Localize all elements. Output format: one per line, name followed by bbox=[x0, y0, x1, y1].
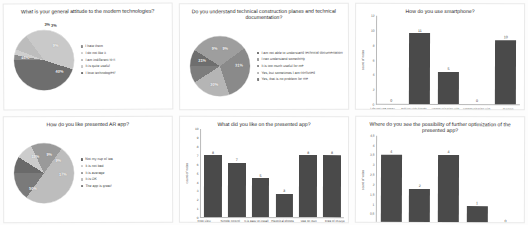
x-tick-label: Use on own mobile phone bbox=[296, 219, 322, 222]
x-axis-labels: I do not use smart functions in smartpho… bbox=[367, 106, 524, 110]
y-tick-label: 0,5 bbox=[370, 212, 374, 216]
bar bbox=[409, 33, 430, 104]
legend-swatch-icon bbox=[81, 178, 83, 180]
bar bbox=[495, 40, 516, 104]
pie-slice-value: 9% bbox=[55, 157, 61, 162]
legend-label: I love technologies! bbox=[85, 71, 115, 75]
y-tick-label: 7 bbox=[197, 153, 199, 157]
y-tick-label: 4,5 bbox=[370, 133, 374, 137]
y-tick-label: 8 bbox=[373, 44, 375, 48]
pie-wrap: 3%3%9%40%45% bbox=[14, 30, 74, 90]
chart-panel-like-ar-pie: How do you like presented AR app? 9%9%17… bbox=[3, 115, 173, 222]
pie-body: 9%31%30%21%9% I am not able to understan… bbox=[180, 22, 348, 110]
pie-slice-value: 9% bbox=[46, 152, 52, 157]
bar-value-label: 11 bbox=[418, 28, 422, 32]
y-axis-ticks: 121086420 bbox=[365, 16, 376, 105]
y-axis-ticks: 4,543,532,521,510,50 bbox=[365, 135, 376, 222]
legend-swatch-icon bbox=[81, 171, 83, 173]
bar-column: 7 bbox=[225, 129, 249, 217]
legend-label: It is too much useful for me bbox=[261, 64, 303, 68]
y-tick-label: 0 bbox=[373, 222, 375, 223]
chart-legend: I hate themI do not like itI am indiffer… bbox=[74, 44, 169, 75]
y-tick-label: 8 bbox=[197, 144, 199, 148]
pie-wrap: 9%31%30%21%9% bbox=[190, 36, 250, 96]
survey-charts-sheet: What is your general attitude to the mod… bbox=[0, 0, 528, 225]
x-axis-labels: Free viewSimple controlIt is easy to ins… bbox=[191, 219, 348, 223]
x-tick-label: Simple control bbox=[217, 219, 243, 223]
bar-value-label: 8 bbox=[212, 150, 214, 154]
legend-swatch-icon bbox=[81, 72, 83, 74]
bar-value-label: 7 bbox=[236, 158, 238, 162]
y-tick-label: 4 bbox=[373, 143, 375, 147]
bar-column: 5 bbox=[249, 129, 273, 217]
pie-slice-value: 9% bbox=[53, 42, 59, 47]
x-tick-label: I do not use smart functions in smartpho… bbox=[367, 106, 398, 110]
bar-value-label: 3 bbox=[283, 189, 285, 193]
y-tick-label: 1 bbox=[197, 206, 199, 210]
legend-item: It is quite useful bbox=[81, 64, 169, 69]
bar-value-label: 4 bbox=[390, 149, 392, 153]
legend-item: Not my cup of tea bbox=[81, 156, 169, 160]
bar bbox=[323, 155, 341, 217]
legend-swatch-icon bbox=[257, 72, 259, 74]
bar bbox=[438, 154, 459, 222]
x-tick-label: Historical photos bbox=[269, 219, 295, 222]
legend-item: I love technologies! bbox=[81, 70, 169, 75]
bar bbox=[252, 178, 270, 217]
pie-body: 3%3%9%40%45% I hate themI do not like it… bbox=[4, 15, 173, 105]
legend-item: I do not like it bbox=[81, 50, 169, 55]
plot-area: 0115010 bbox=[376, 16, 520, 105]
bar-series: 42410 bbox=[377, 135, 520, 222]
bar-column: 0 bbox=[463, 16, 492, 104]
legend-item: I am not able to understand technical do… bbox=[257, 50, 345, 54]
bar bbox=[438, 72, 459, 104]
bar-column: 11 bbox=[405, 16, 434, 104]
legend-item: It is not bad bbox=[81, 163, 169, 167]
bar-series: 875388 bbox=[201, 129, 344, 217]
chart-panel-understand-pie: Do you understand technical construction… bbox=[179, 3, 349, 110]
y-tick-label: 5 bbox=[197, 171, 199, 175]
chart-panel-smartphone-bar: How do you use smartphone? count of vote… bbox=[355, 3, 525, 110]
bar-value-label: 5 bbox=[260, 173, 262, 177]
bar-value-label: 5 bbox=[447, 67, 449, 71]
x-tick-label: Free view bbox=[191, 219, 217, 223]
pie-wrap: 9%9%17%50%15% bbox=[14, 142, 74, 202]
legend-swatch-icon bbox=[81, 59, 83, 61]
bar-column: 8 bbox=[296, 129, 320, 217]
legend-label: Yes, but sometimes I am confused bbox=[261, 71, 314, 75]
bar-column: 8 bbox=[201, 129, 225, 217]
legend-label: Yes, that is no problem for me bbox=[261, 77, 307, 81]
y-tick-label: 10 bbox=[195, 127, 199, 131]
x-tick-label: It is easy to install bbox=[243, 219, 269, 222]
charts-grid: What is your general attitude to the mod… bbox=[0, 0, 528, 225]
y-tick-label: 4 bbox=[373, 73, 375, 77]
legend-swatch-icon bbox=[257, 58, 259, 60]
chart-title: How do you use smartphone? bbox=[356, 4, 524, 16]
bar-value-label: 1 bbox=[476, 201, 478, 205]
pie-slice-value: 17% bbox=[59, 172, 67, 177]
bar-value-label: 8 bbox=[307, 150, 309, 154]
legend-label: It is average bbox=[85, 170, 104, 174]
legend-label: It is quite useful bbox=[85, 64, 109, 68]
y-axis-ticks: 109876543210 bbox=[189, 129, 200, 218]
bar-column: 4 bbox=[377, 135, 406, 222]
bar-series: 0115010 bbox=[377, 16, 520, 104]
bar-column: 10 bbox=[491, 17, 520, 105]
legend-item: It is OK bbox=[81, 176, 169, 180]
bar-body: count of votes 121086420 0115010 bbox=[356, 15, 524, 105]
bar-value-label: 4 bbox=[448, 150, 450, 154]
legend-swatch-icon bbox=[257, 78, 259, 80]
legend-label: I am indifferent to it bbox=[85, 57, 115, 61]
bar-value-label: 2 bbox=[419, 184, 421, 188]
bar-body: count of votes 4,543,532,521,510,50 4241… bbox=[356, 134, 524, 222]
y-tick-label: 2 bbox=[373, 88, 375, 92]
legend-item: It is average bbox=[81, 170, 169, 174]
bar bbox=[466, 206, 487, 223]
legend-label: Not my cup of tea bbox=[85, 157, 112, 161]
bar bbox=[275, 193, 293, 216]
bar-value-label: 0 bbox=[476, 99, 478, 103]
legend-label: I hate them bbox=[85, 44, 103, 48]
legend-swatch-icon bbox=[81, 185, 83, 187]
chart-legend: I am not able to understand technical do… bbox=[250, 50, 345, 81]
legend-label: The app is great! bbox=[85, 183, 111, 187]
